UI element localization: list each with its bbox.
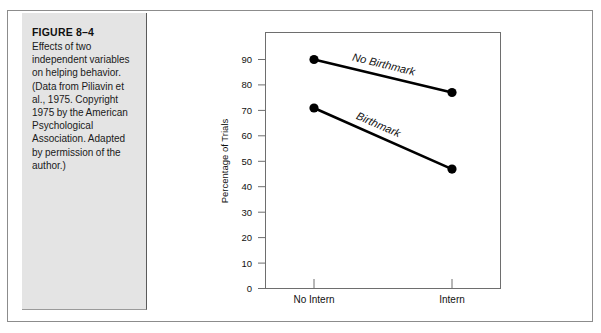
line-chart: 0 10 20 30 40 50 60 70 80 90 Percentage …: [148, 11, 592, 321]
caption-text-block: FIGURE 8–4 Effects of two independent va…: [32, 26, 132, 172]
series-label-no-birthmark: No Birthmark: [351, 51, 417, 78]
y-tick-label: 60: [241, 130, 252, 141]
series-label-birthmark: Birthmark: [355, 109, 403, 139]
y-axis-ticks: [258, 60, 266, 289]
y-axis-tick-labels: 0 10 20 30 40 50 60 70 80 90: [241, 54, 252, 294]
y-tick-label: 10: [241, 258, 252, 269]
series-no-birthmark: No Birthmark: [309, 51, 456, 97]
y-tick-label: 90: [241, 54, 252, 65]
y-tick-label: 0: [247, 283, 252, 294]
chart-container: 0 10 20 30 40 50 60 70 80 90 Percentage …: [148, 11, 592, 321]
x-category-label-no-intern: No Intern: [293, 294, 334, 305]
x-axis-ticks: [314, 279, 452, 289]
y-tick-label: 20: [241, 232, 252, 243]
figure-root: FIGURE 8–4 Effects of two independent va…: [0, 0, 601, 333]
y-tick-label: 40: [241, 181, 252, 192]
y-tick-label: 70: [241, 105, 252, 116]
figure-caption-text: Effects of two independent variables on …: [32, 40, 132, 172]
series-birthmark: Birthmark: [309, 103, 456, 173]
y-tick-label: 80: [241, 79, 252, 90]
caption-panel: FIGURE 8–4 Effects of two independent va…: [22, 13, 147, 310]
figure-number-label: FIGURE 8–4: [32, 26, 132, 39]
y-tick-label: 30: [241, 207, 252, 218]
y-tick-label: 50: [241, 156, 252, 167]
data-point: [309, 103, 318, 112]
plot-frame: [266, 33, 501, 289]
data-point: [447, 88, 456, 97]
y-axis-title: Percentage of Trials: [219, 119, 230, 204]
data-point: [309, 55, 318, 64]
data-point: [447, 165, 456, 174]
x-category-label-intern: Intern: [439, 294, 465, 305]
